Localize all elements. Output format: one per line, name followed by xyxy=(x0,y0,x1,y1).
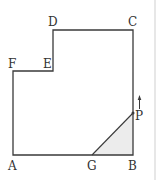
label-e: E xyxy=(43,57,52,71)
label-c: C xyxy=(128,15,137,29)
label-a: A xyxy=(7,159,17,173)
label-b: B xyxy=(128,159,137,173)
label-g: G xyxy=(87,159,97,173)
geometry-diagram: A B C D E F G P xyxy=(0,0,156,180)
label-f: F xyxy=(8,57,16,71)
label-d: D xyxy=(48,15,58,29)
arrow-up-icon xyxy=(138,95,142,109)
label-p: P xyxy=(135,109,143,123)
